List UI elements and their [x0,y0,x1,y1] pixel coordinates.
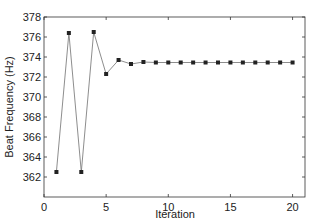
data-point-marker [204,61,208,65]
data-point-marker [92,30,96,34]
y-tick-label: 370 [23,91,41,103]
data-point-marker [191,61,195,65]
x-tick-label: 20 [286,201,298,213]
y-tick-label: 362 [23,171,41,183]
data-point-marker [117,58,121,62]
y-tick-label: 378 [23,11,41,23]
data-point-marker [154,61,158,65]
data-point-marker [104,72,108,76]
y-axis-ticks: 362364366368370372374376378 [23,11,305,183]
data-point-marker [54,170,58,174]
x-tick-label: 0 [41,201,47,213]
data-point-marker [266,61,270,65]
data-point-marker [278,61,282,65]
x-axis-label: Iteration [155,208,195,220]
data-point-marker [291,61,295,65]
line-chart: 362364366368370372374376378 05101520 Ite… [0,0,320,224]
x-tick-label: 5 [103,201,109,213]
y-tick-label: 372 [23,71,41,83]
data-point-marker [179,61,183,65]
data-point-marker [241,61,245,65]
data-point-marker [67,31,71,35]
data-point-marker [253,61,257,65]
y-axis-label: Beat Frequency (Hz) [3,56,15,157]
data-point-marker [141,60,145,64]
y-tick-label: 364 [23,151,41,163]
data-series [54,30,294,174]
y-tick-label: 376 [23,31,41,43]
y-tick-label: 368 [23,111,41,123]
y-tick-label: 366 [23,131,41,143]
data-point-marker [129,62,133,66]
x-axis-ticks: 05101520 [41,17,299,213]
data-point-marker [228,61,232,65]
y-tick-label: 374 [23,51,41,63]
series-line [56,32,292,172]
x-tick-label: 15 [224,201,236,213]
data-point-marker [79,170,83,174]
data-point-marker [216,61,220,65]
data-point-marker [166,61,170,65]
